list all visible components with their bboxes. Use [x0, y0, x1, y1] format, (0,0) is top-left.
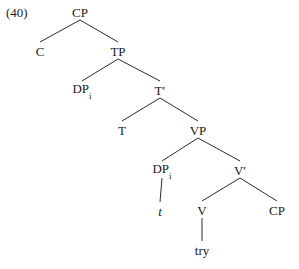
tree-node-cp-root: CP	[72, 6, 88, 19]
tree-node-label: t	[158, 204, 162, 219]
tree-branch-dp-to-trace	[160, 178, 162, 202]
tree-branch-cp-to-c	[40, 20, 80, 42]
tree-node-subscript: i	[169, 170, 172, 180]
tree-branch-vp-to-dp	[162, 138, 198, 161]
tree-branch-tp-to-tbar	[118, 59, 160, 81]
tree-node-label: T	[118, 123, 126, 138]
tree-node-v-head: V	[197, 204, 206, 217]
tree-node-dp-object: DPi	[152, 162, 171, 179]
tree-node-label: CP	[269, 203, 285, 218]
tree-branch-tp-to-dp	[82, 59, 118, 81]
syntax-tree-figure: (40) CPCTPDPiT′TVPDPiV′tVCPtry	[0, 0, 299, 269]
tree-node-label: DP	[72, 81, 89, 96]
tree-node-label: V′	[234, 163, 246, 178]
tree-node-trace: t	[158, 205, 162, 218]
tree-node-tp: TP	[110, 45, 125, 58]
tree-node-label: C	[36, 44, 45, 59]
tree-branch-cp-to-tp	[80, 20, 118, 42]
tree-node-vp: VP	[190, 124, 207, 137]
tree-node-label: try	[195, 243, 209, 258]
tree-node-cp-comp: CP	[269, 204, 285, 217]
tree-node-dp-spec: DPi	[72, 82, 91, 99]
tree-branch-vbar-to-v	[202, 178, 240, 201]
tree-node-label: V	[197, 203, 206, 218]
tree-node-v-bar: V′	[234, 164, 246, 177]
tree-branch-vp-to-vbar	[198, 138, 240, 161]
tree-node-c-head: C	[36, 45, 45, 58]
tree-node-label: DP	[152, 161, 169, 176]
tree-branches	[0, 0, 299, 269]
tree-node-t-head: T	[118, 124, 126, 137]
tree-node-subscript: i	[89, 90, 92, 100]
tree-branch-tbar-to-vp	[160, 98, 198, 121]
tree-node-label: VP	[190, 123, 207, 138]
tree-node-label: T′	[155, 83, 166, 98]
tree-node-verb-try: try	[195, 244, 209, 257]
tree-node-t-bar: T′	[155, 84, 166, 97]
tree-branch-vbar-to-cp	[240, 178, 277, 201]
tree-node-label: CP	[72, 5, 88, 20]
tree-node-label: TP	[110, 44, 125, 59]
tree-branch-tbar-to-t	[122, 98, 160, 121]
